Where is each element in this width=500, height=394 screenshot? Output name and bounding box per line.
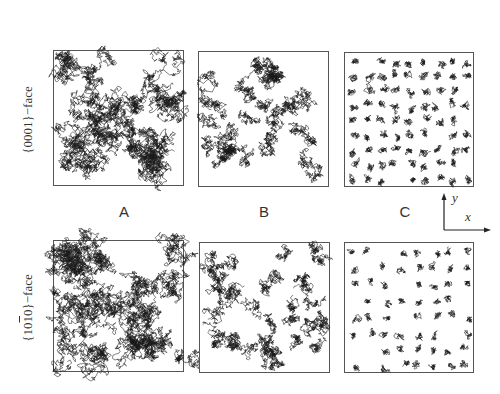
panel-1010-C — [344, 242, 474, 373]
y-axis-label: y — [452, 190, 458, 206]
panel-1010-A — [53, 240, 184, 372]
column-label-a: A — [109, 203, 139, 220]
x-axis-label: x — [465, 209, 471, 225]
row-label-overline-digit: 1 — [20, 316, 35, 323]
row-label-part-b: 0}−face — [20, 274, 35, 316]
panel-1010-B — [199, 242, 330, 373]
random-walk-traces — [54, 51, 183, 185]
random-walk-traces — [54, 241, 183, 371]
random-walk-traces — [199, 52, 328, 186]
row-label-0001-face: {0001}−face — [20, 55, 36, 185]
row-label-part-a: {10 — [20, 322, 35, 341]
panel-0001-B — [198, 51, 329, 187]
row-label-1010-face: {1010}−face — [20, 243, 36, 373]
column-label-c: C — [390, 203, 420, 220]
panel-0001-C — [344, 52, 474, 187]
column-label-b: B — [249, 203, 279, 220]
panel-0001-A — [53, 50, 184, 186]
random-walk-traces — [200, 243, 329, 372]
random-walk-traces — [345, 243, 473, 372]
random-walk-traces — [345, 53, 473, 186]
